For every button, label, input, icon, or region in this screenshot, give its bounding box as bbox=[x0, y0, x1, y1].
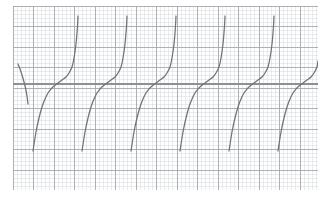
grid-major-lines bbox=[13, 6, 318, 190]
grid-layer bbox=[13, 6, 318, 190]
graph-paper-page: Tangent-type periodic function on graph … bbox=[0, 0, 328, 202]
grid-minor-lines bbox=[13, 6, 318, 190]
plot-area bbox=[13, 6, 318, 190]
